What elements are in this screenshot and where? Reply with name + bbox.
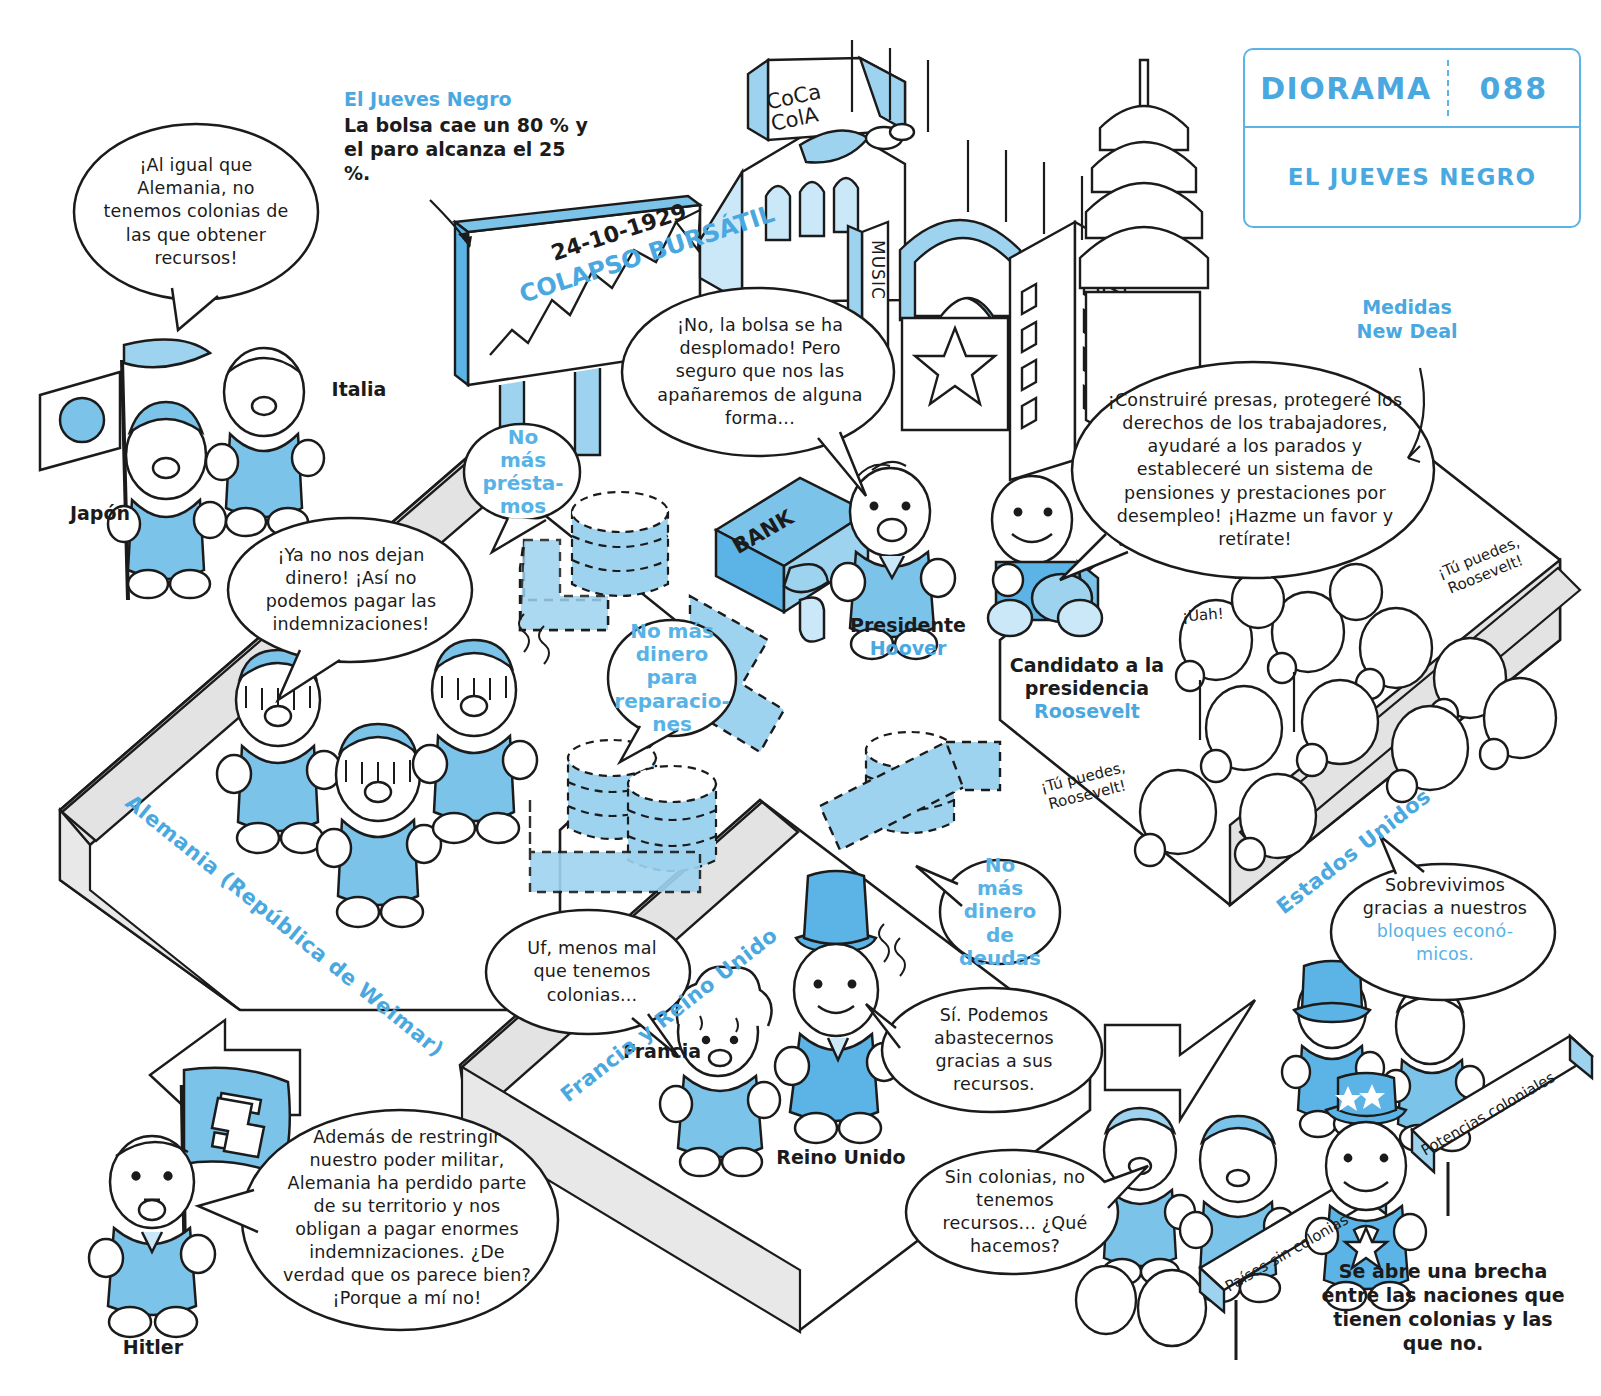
diorama-number: 088 [1449, 71, 1579, 106]
usa-survive-line1: Sobrevivimos gracias a nuestros [1363, 875, 1527, 918]
bottom-note: Se abre una brecha entre las naciones qu… [1318, 1260, 1568, 1356]
usa-survive-highlight: bloques econó-micos. [1377, 921, 1514, 964]
label-uk: Reino Unido [768, 1146, 914, 1169]
balloon-no-loans: No más présta-mos [476, 426, 570, 518]
bubble-usa-survive: Sobrevivimos gracias a nuestros bloques … [1352, 874, 1538, 966]
diorama-title: EL JUEVES NEGRO [1245, 128, 1579, 226]
label-japan: Japón [46, 502, 154, 525]
ground-label-germany: Alemania (República de Weimar) [121, 790, 449, 1062]
balloon-no-debt: No más dinero de deudas [946, 862, 1054, 962]
black-thursday-body: La bolsa cae un 80 % y el paro alcanza e… [344, 114, 594, 186]
figure-uk [775, 871, 905, 1143]
money-stack-1 [572, 492, 668, 596]
money-stack-4 [866, 732, 954, 833]
black-thursday-heading: El Jueves Negro [344, 88, 594, 112]
group-no-colonies [1076, 1108, 1296, 1346]
flow-arrow-debt [530, 742, 1000, 892]
figure-hitler [89, 1068, 290, 1337]
diorama-badge-row: DIORAMA 088 [1245, 50, 1579, 128]
diorama-badge: DIORAMA 088 EL JUEVES NEGRO [1243, 48, 1581, 228]
sign-colonial-powers [1412, 1036, 1592, 1216]
money-stack-2 [568, 740, 656, 839]
crowd-chant-2: ¡Tú puedes, Roosevelt! [1027, 755, 1142, 817]
balloon-no-reparations: No más dinero para reparacio-nes [614, 620, 730, 736]
label-hitler: Hitler [98, 1336, 208, 1359]
slab-arrow-right [1105, 1000, 1255, 1120]
bubble-italy-text: ¡Al igual que Alemania, no tenemos colon… [86, 142, 306, 282]
roosevelt-title: Candidato a la presidencia [1010, 654, 1164, 699]
crowd-cheer: ¡Uah! [1181, 605, 1224, 626]
roosevelt-name: Roosevelt [996, 700, 1178, 723]
bubble-hitler-text: Además de restringir nuestro poder milit… [268, 1118, 546, 1318]
hoover-title: Presidente [850, 614, 966, 636]
figure-german-2 [317, 724, 441, 927]
figure-japan [40, 340, 226, 600]
new-deal-annotation: Medidas New Deal [1352, 296, 1462, 344]
hoover-name: Hoover [828, 637, 988, 660]
diorama-page: DIORAMA 088 EL JUEVES NEGRO El Jueves Ne… [0, 0, 1601, 1396]
bubble-roosevelt-text: ¡Construiré presas, protegeré los derech… [1090, 372, 1420, 568]
figure-italy [206, 348, 324, 536]
bubble-hoover-text: ¡No, la bolsa se ha desplomado! Pero seg… [640, 304, 880, 440]
diorama-label: DIORAMA [1245, 71, 1447, 106]
bubble-france-text: Uf, menos mal que tenemos colonias... [504, 922, 680, 1022]
coca-cola-sign: CoCa ColA [764, 73, 861, 135]
label-hoover: Presidente Hoover [828, 614, 988, 660]
music-sign: MUSIC [862, 240, 886, 300]
figure-german-1 [217, 650, 341, 853]
money-stack-3 [628, 766, 716, 871]
label-italy: Italia [304, 378, 414, 401]
bank-sign: BANK [728, 505, 797, 559]
bubble-uk-text: Sí. Podemos abastecernos gracias a sus r… [900, 1000, 1088, 1100]
flow-arrow-loans [520, 540, 608, 630]
crowd-chant-1: ¡Tú puedes, Roosevelt! [1425, 529, 1539, 603]
black-thursday-annotation: El Jueves Negro La bolsa cae un 80 % y e… [344, 88, 594, 186]
label-roosevelt: Candidato a la presidencia Roosevelt [996, 654, 1178, 722]
figure-roosevelt [988, 476, 1102, 636]
bubble-germany-citizens-text: ¡Ya no nos dejan dinero! ¡Así no podemos… [240, 528, 462, 652]
bubble-no-colonies-text: Sin colonias, no tenemos recursos... ¿Qu… [926, 1162, 1104, 1262]
sign-text-colonial-powers: Potencias coloniales [1418, 1068, 1558, 1159]
